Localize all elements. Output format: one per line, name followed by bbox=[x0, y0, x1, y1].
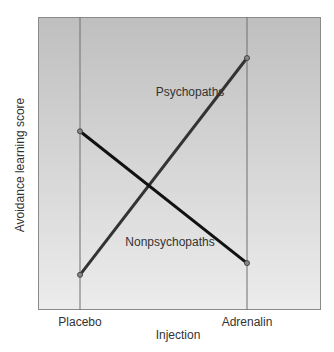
psychopaths-label: Psychopaths bbox=[156, 85, 225, 99]
data-point bbox=[245, 56, 250, 61]
nonpsychopaths-label: Nonpsychopaths bbox=[125, 235, 214, 249]
data-point bbox=[245, 261, 250, 266]
x-axis-label: Injection bbox=[156, 328, 201, 342]
y-axis-label: Avoidance learning score bbox=[13, 98, 27, 233]
data-point bbox=[78, 129, 83, 134]
x-tick-adrenalin: Adrenalin bbox=[222, 315, 273, 329]
x-tick-placebo: Placebo bbox=[58, 315, 101, 329]
data-point bbox=[78, 272, 83, 277]
chart-lines bbox=[0, 0, 334, 352]
